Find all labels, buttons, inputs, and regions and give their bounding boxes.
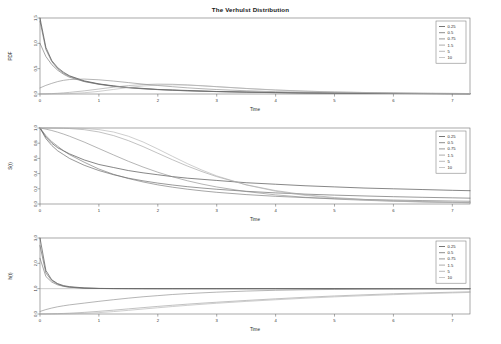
curve-0.25 xyxy=(40,238,470,289)
x-axis-title: Time xyxy=(250,217,260,222)
curve-0.5 xyxy=(40,246,470,289)
panel-pdf: 012345670.00.51.01.5TimePDF0.250.50.751.… xyxy=(0,14,501,114)
curve-0.75 xyxy=(40,128,470,201)
x-tick-label: 5 xyxy=(333,318,336,323)
figure-title: The Verhulst Distribution xyxy=(0,6,501,13)
x-tick-label: 2 xyxy=(157,208,160,213)
y-tick-label: 0.8 xyxy=(33,140,38,146)
y-tick-label: 0.5 xyxy=(33,65,38,71)
legend-label-0.25: 0.25 xyxy=(448,134,457,139)
x-tick-label: 7 xyxy=(451,318,454,323)
x-tick-label: 5 xyxy=(333,98,336,103)
y-tick-label: 1.0 xyxy=(33,40,38,46)
curve-0.75 xyxy=(40,258,470,288)
y-tick-label: 0.0 xyxy=(33,310,38,316)
curve-0.75 xyxy=(40,43,470,93)
x-axis-title: Time xyxy=(250,327,260,332)
y-tick-label: 0.6 xyxy=(33,155,38,161)
x-tick-label: 5 xyxy=(333,208,336,213)
plot-survival: 012345670.00.20.40.60.81.0TimeS(t)0.250.… xyxy=(0,124,501,224)
x-tick-label: 1 xyxy=(98,318,101,323)
x-tick-label: 0 xyxy=(39,98,42,103)
panel-hazard: 012345670.01.02.03.0Timeh(t)0.250.50.751… xyxy=(0,234,501,334)
legend-label-0.75: 0.75 xyxy=(448,36,457,41)
x-tick-label: 2 xyxy=(157,318,160,323)
x-tick-label: 4 xyxy=(274,208,277,213)
curve-0.25 xyxy=(40,18,470,94)
legend-label-10: 10 xyxy=(448,275,453,280)
y-tick-label: 0.4 xyxy=(33,170,38,176)
curve-5 xyxy=(40,292,470,314)
legend-label-1.5: 1.5 xyxy=(448,43,454,48)
legend-label-1.5: 1.5 xyxy=(448,153,454,158)
x-tick-label: 7 xyxy=(451,208,454,213)
x-tick-label: 4 xyxy=(274,318,277,323)
x-tick-label: 1 xyxy=(98,98,101,103)
x-tick-label: 0 xyxy=(39,208,42,213)
x-tick-label: 3 xyxy=(216,208,219,213)
plot-pdf: 012345670.00.51.01.5TimePDF0.250.50.751.… xyxy=(0,14,501,114)
y-tick-label: 1.5 xyxy=(33,14,38,20)
curve-0.5 xyxy=(40,128,470,198)
x-tick-label: 3 xyxy=(216,318,219,323)
legend-label-0.5: 0.5 xyxy=(448,30,454,35)
legend-label-10: 10 xyxy=(448,165,453,170)
legend-label-0.75: 0.75 xyxy=(448,256,457,261)
legend-label-0.25: 0.25 xyxy=(448,24,457,29)
x-axis-title: Time xyxy=(250,107,260,112)
y-tick-label: 1.0 xyxy=(33,124,38,130)
y-tick-label: 2.0 xyxy=(33,260,38,266)
y-tick-label: 3.0 xyxy=(33,234,38,240)
x-tick-label: 3 xyxy=(216,98,219,103)
curve-5 xyxy=(40,128,470,203)
legend-label-1.5: 1.5 xyxy=(448,263,454,268)
legend-label-10: 10 xyxy=(448,55,453,60)
legend-label-0.25: 0.25 xyxy=(448,244,457,249)
x-tick-label: 4 xyxy=(274,98,277,103)
y-tick-label: 0.0 xyxy=(33,90,38,96)
x-tick-label: 1 xyxy=(98,208,101,213)
y-tick-label: 0.2 xyxy=(33,185,38,191)
curve-1.5 xyxy=(40,79,470,94)
y-tick-label: 0.0 xyxy=(33,200,38,206)
plot-hazard: 012345670.01.02.03.0Timeh(t)0.250.50.751… xyxy=(0,234,501,334)
legend-label-0.5: 0.5 xyxy=(448,250,454,255)
x-tick-label: 0 xyxy=(39,318,42,323)
legend-label-0.75: 0.75 xyxy=(448,146,457,151)
plot-frame xyxy=(40,238,470,314)
x-tick-label: 6 xyxy=(392,98,395,103)
x-tick-label: 7 xyxy=(451,98,454,103)
panel-survival: 012345670.00.20.40.60.81.0TimeS(t)0.250.… xyxy=(0,124,501,224)
y-axis-title: S(t) xyxy=(8,162,13,170)
y-axis-title: PDF xyxy=(8,51,13,60)
curve-0.5 xyxy=(40,21,470,94)
y-tick-label: 1.0 xyxy=(33,285,38,291)
x-tick-label: 6 xyxy=(392,318,395,323)
figure-canvas: The Verhulst Distribution 012345670.00.5… xyxy=(0,0,501,344)
y-axis-title: h(t) xyxy=(8,272,13,279)
x-tick-label: 6 xyxy=(392,208,395,213)
plot-frame xyxy=(40,18,470,94)
x-tick-label: 2 xyxy=(157,98,160,103)
curve-0.25 xyxy=(40,128,470,191)
legend-label-0.5: 0.5 xyxy=(448,140,454,145)
curve-1.5 xyxy=(40,128,470,203)
